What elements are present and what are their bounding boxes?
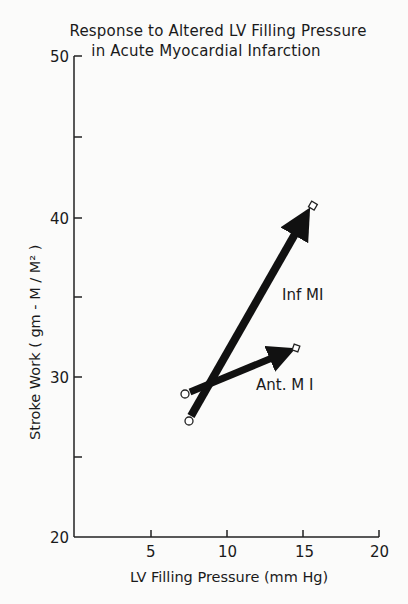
y-tick-40: 40 xyxy=(50,210,69,228)
ant-mi-end-marker xyxy=(292,344,300,352)
x-tick-15: 15 xyxy=(295,543,314,561)
y-axis xyxy=(74,56,82,537)
y-tick-30: 30 xyxy=(50,369,69,387)
inf-mi-label: Inf MI xyxy=(282,286,323,304)
x-tick-5: 5 xyxy=(146,543,156,561)
ant-mi-label: Ant. M I xyxy=(256,376,313,394)
x-axis-label: LV Filling Pressure (mm Hg) xyxy=(130,569,328,585)
x-tick-20: 20 xyxy=(370,543,389,561)
x-tick-10: 10 xyxy=(218,543,237,561)
inf-mi-start-marker xyxy=(185,417,193,425)
y-tick-20: 20 xyxy=(50,529,69,547)
x-axis xyxy=(74,530,379,537)
chart-plot: 50 40 30 20 5 10 15 20 LV Filling Pressu… xyxy=(0,0,408,604)
y-tick-50: 50 xyxy=(50,48,69,66)
y-axis-label: Stroke Work ( gm - M / M² ) xyxy=(27,245,43,440)
ant-mi-start-marker xyxy=(181,390,189,398)
inf-mi-end-marker xyxy=(308,201,317,210)
